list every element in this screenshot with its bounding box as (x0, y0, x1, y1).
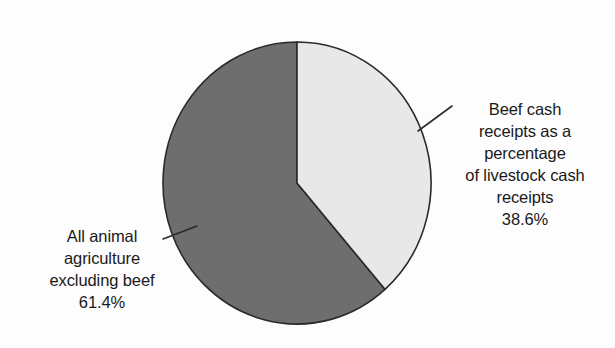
slice-label-beef-line-5: receipts (441, 186, 609, 208)
slice-label-other-line-2: agriculture (10, 247, 194, 269)
slice-label-beef-line-3: percentage (441, 142, 609, 164)
slice-value-other: 61.4% (10, 291, 194, 313)
slice-label-other-line-1: All animal (10, 225, 194, 247)
slice-label-beef-line-2: receipts as a (441, 120, 609, 142)
slice-value-beef: 38.6% (441, 208, 609, 230)
pie-chart-figure: Beef cash receipts as a percentage of li… (0, 0, 615, 348)
slice-label-beef-line-4: of livestock cash (441, 164, 609, 186)
slice-label-beef-line-1: Beef cash (441, 98, 609, 120)
slice-label-all-animal-agriculture-excluding-beef: All animal agriculture excluding beef 61… (10, 225, 194, 313)
slice-label-beef-cash-receipts: Beef cash receipts as a percentage of li… (441, 98, 609, 230)
slice-label-other-line-3: excluding beef (10, 269, 194, 291)
